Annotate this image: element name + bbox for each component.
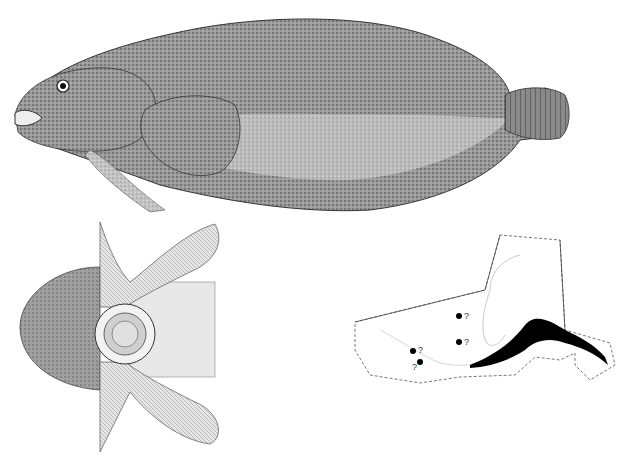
map-point: ? [456, 311, 469, 321]
map-point: ? [410, 345, 423, 355]
caudal-fin [505, 88, 569, 140]
fish-drawing [0, 0, 625, 215]
ventral-head [20, 267, 100, 390]
map-drawing: ? ? ? ? [340, 225, 625, 385]
ventral-disc-illustration [0, 212, 240, 460]
map-point: ? [412, 359, 423, 372]
disc-drawing [0, 212, 240, 460]
fish-head [15, 68, 155, 152]
svg-text:?: ? [464, 337, 469, 347]
fish-lateral-illustration [0, 0, 625, 215]
map-point: ? [456, 337, 469, 347]
svg-text:?: ? [412, 362, 417, 372]
distribution-map: ? ? ? ? [340, 225, 625, 385]
svg-text:?: ? [464, 311, 469, 321]
svg-text:?: ? [418, 345, 423, 355]
species-range [470, 319, 608, 368]
